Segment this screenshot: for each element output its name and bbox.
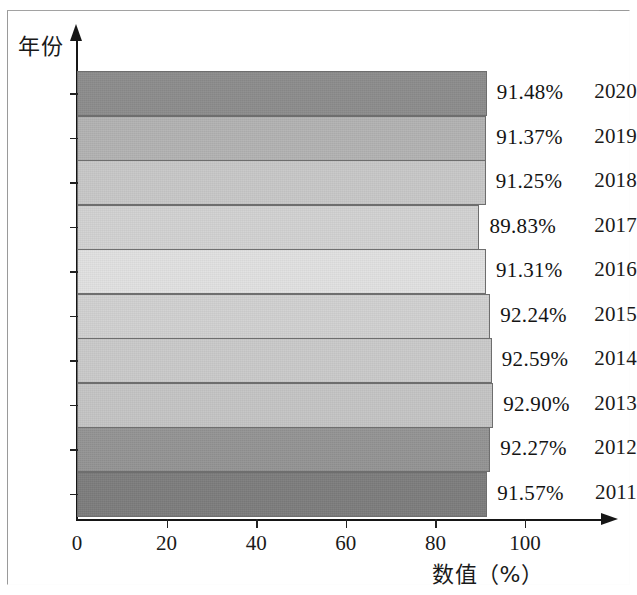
chart-page: 年份 91.48%91.37%91.25%89.83%91.31%92.24%9… <box>0 0 637 595</box>
y-tick-2020 <box>70 93 78 94</box>
bar-2013 <box>77 383 493 428</box>
x-axis-label-0: 0 <box>72 531 83 556</box>
y-tick-2019 <box>70 138 78 139</box>
bar-2018 <box>77 160 486 205</box>
y-axis-label-2018: 2018 <box>571 168 637 193</box>
bar-value-label-2019: 91.37% <box>496 125 563 150</box>
bar-value-label-2014: 92.59% <box>502 347 569 372</box>
y-axis-label-2014: 2014 <box>571 346 637 371</box>
x-axis-arrow-icon <box>601 513 618 525</box>
bar-value-label-2015: 92.24% <box>500 303 567 328</box>
x-axis-label-100: 100 <box>509 531 541 556</box>
bar-value-label-2013: 92.90% <box>503 392 570 417</box>
y-axis-label-2012: 2012 <box>571 435 637 460</box>
bar-value-label-2012: 92.27% <box>500 436 567 461</box>
y-axis-label-2013: 2013 <box>571 391 637 416</box>
y-axis-label-2017: 2017 <box>571 213 637 238</box>
x-axis-title: 数值（%） <box>432 556 543 588</box>
bar-2020 <box>77 71 487 116</box>
x-tick-20 <box>167 519 168 528</box>
x-axis-label-40: 40 <box>246 531 267 556</box>
y-tick-2013 <box>70 405 78 406</box>
y-axis-label-2015: 2015 <box>571 302 637 327</box>
y-axis-label-2016: 2016 <box>571 257 637 282</box>
bar-chart: 年份 91.48%91.37%91.25%89.83%91.31%92.24%9… <box>0 0 637 595</box>
x-axis-label-20: 20 <box>156 531 177 556</box>
bar-value-label-2016: 91.31% <box>496 258 563 283</box>
bar-2019 <box>77 116 486 161</box>
x-tick-100 <box>525 519 526 528</box>
bar-2011 <box>77 472 487 517</box>
bar-value-label-2018: 91.25% <box>496 169 563 194</box>
bar-value-label-2020: 91.48% <box>497 80 564 105</box>
y-axis-label-2011: 2011 <box>571 480 637 505</box>
y-tick-2016 <box>70 271 78 272</box>
x-tick-80 <box>435 519 436 528</box>
x-axis-label-60: 60 <box>335 531 356 556</box>
bar-value-label-2011: 91.57% <box>497 481 564 506</box>
x-tick-40 <box>256 519 257 528</box>
y-axis-label-2019: 2019 <box>571 124 637 149</box>
bar-2014 <box>77 338 492 383</box>
y-tick-2011 <box>70 494 78 495</box>
x-axis-label-80: 80 <box>425 531 446 556</box>
y-tick-2014 <box>70 360 78 361</box>
y-tick-2015 <box>70 316 78 317</box>
bar-2017 <box>77 205 479 250</box>
y-tick-2012 <box>70 449 78 450</box>
bar-2016 <box>77 249 486 294</box>
y-axis-arrow-icon <box>70 24 82 41</box>
y-tick-2018 <box>70 182 78 183</box>
y-axis-label-2020: 2020 <box>571 79 637 104</box>
bar-2012 <box>77 427 490 472</box>
bar-2015 <box>77 294 490 339</box>
bar-value-label-2017: 89.83% <box>489 214 556 239</box>
y-axis-title: 年份 <box>18 28 64 60</box>
x-tick-60 <box>346 519 347 528</box>
x-axis-line <box>76 519 603 521</box>
y-tick-2017 <box>70 227 78 228</box>
